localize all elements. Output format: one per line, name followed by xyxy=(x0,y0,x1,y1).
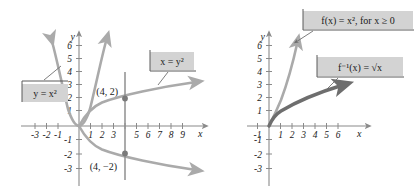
right-ytick-2: 2 xyxy=(257,93,262,103)
point-label-4-minus-2: (4, −2) xyxy=(90,161,117,173)
callout-f-of-x: f(x) = x², for x ≥ 0 xyxy=(296,9,414,42)
left-ytick--1: -1 xyxy=(64,135,72,145)
right-ytick-3: 3 xyxy=(256,80,262,90)
left-ytick-4: 4 xyxy=(67,67,72,77)
left-x-axis-label: x xyxy=(197,128,203,139)
right-panel: -1 1 2 3 4 5 6 6 5 4 3 2 1 -1 -2 -3 y x … xyxy=(247,9,414,186)
left-ytick-5: 5 xyxy=(67,54,72,64)
left-xtick-3: 3 xyxy=(110,130,116,140)
right-ytick-6: 6 xyxy=(257,41,262,51)
right-ytick--3: -3 xyxy=(254,164,262,174)
callout-x-equals-y-squared-text: x = y² xyxy=(160,56,184,67)
callout-y-equals-x-squared-text: y = x² xyxy=(33,88,57,99)
inverse-function-figure: -3 -2 -1 1 2 3 5 6 7 8 9 6 5 4 3 2 1 -1 … xyxy=(0,0,419,193)
left-xtick-9: 9 xyxy=(180,130,185,140)
curve-f-inverse-sqrt-x xyxy=(269,85,343,126)
callout-f-inverse-text: f⁻¹(x) = √x xyxy=(338,62,382,74)
right-ytick-1: 1 xyxy=(257,106,262,116)
right-xtick-2: 2 xyxy=(290,130,295,140)
right-xtick-4: 4 xyxy=(313,130,318,140)
left-ytick--3: -3 xyxy=(64,164,72,174)
right-xtick-5: 5 xyxy=(324,130,329,140)
callout-f-inverse: f⁻¹(x) = √x xyxy=(317,55,404,89)
left-xtick--2: -2 xyxy=(43,130,51,140)
right-y-axis-label: y xyxy=(260,31,266,42)
point-4-minus-2 xyxy=(122,151,128,157)
right-x-axis-label: x xyxy=(356,128,362,139)
curve-f-x-squared-restricted xyxy=(269,42,298,126)
left-xtick-8: 8 xyxy=(169,130,174,140)
right-ytick-5: 5 xyxy=(257,54,262,64)
left-xtick-5: 5 xyxy=(134,130,139,140)
left-ytick--2: -2 xyxy=(64,150,72,160)
left-xtick-2: 2 xyxy=(100,130,105,140)
callout-f-of-x-text: f(x) = x², for x ≥ 0 xyxy=(321,15,394,27)
left-xtick--1: -1 xyxy=(54,130,62,140)
right-ytick-4: 4 xyxy=(257,67,262,77)
left-ytick-6: 6 xyxy=(67,41,72,51)
right-xtick-6: 6 xyxy=(336,130,341,140)
left-xtick--3: -3 xyxy=(31,130,39,140)
left-y-axis-label: y xyxy=(70,31,76,42)
point-label-4-2: (4, 2) xyxy=(96,86,118,98)
right-xtick-1: 1 xyxy=(278,130,283,140)
left-panel: -3 -2 -1 1 2 3 5 6 7 8 9 6 5 4 3 2 1 -1 … xyxy=(21,31,205,186)
right-xtick-3: 3 xyxy=(300,130,306,140)
left-xtick-7: 7 xyxy=(157,130,163,140)
left-xtick-6: 6 xyxy=(146,130,151,140)
callout-y-equals-x-squared: y = x² xyxy=(22,66,68,102)
right-ytick--2: -2 xyxy=(254,150,262,160)
callout-x-equals-y-squared: x = y² xyxy=(150,50,196,85)
right-ytick--1: -1 xyxy=(254,135,262,145)
point-4-2 xyxy=(122,96,128,102)
